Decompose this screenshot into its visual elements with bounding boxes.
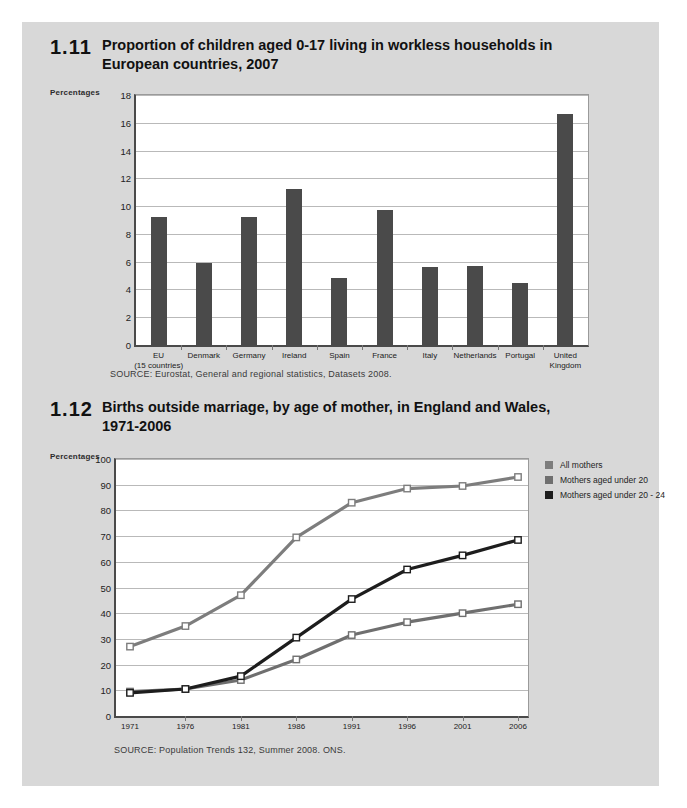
x-axis-tick-label: 1981 — [232, 722, 250, 732]
figure-1-12-heading: 1.12 Births outside marriage, by age of … — [50, 398, 659, 435]
figure-1-11-heading: 1.11 Proportion of children aged 0-17 li… — [50, 36, 659, 73]
figure-1-12-y-axis-caption: Percentages — [50, 452, 100, 461]
gridline — [136, 151, 588, 152]
x-axis-tick-mark — [463, 716, 464, 721]
bar — [422, 267, 438, 345]
x-axis-tick-mark — [498, 345, 499, 350]
data-point-marker — [182, 623, 188, 629]
legend-item-label: Mothers aged under 20 — [560, 475, 648, 485]
data-point-marker — [293, 534, 299, 540]
x-axis-tick-label: Italy — [422, 351, 437, 361]
line-chart-legend: All mothersMothers aged under 20Mothers … — [545, 460, 665, 505]
y-axis-tick-label: 8 — [126, 228, 131, 239]
x-axis-tick-label-line: Germany — [233, 351, 266, 361]
bar — [467, 266, 483, 345]
y-axis-tick-label: 100 — [95, 454, 111, 465]
y-axis-tick-label: 60 — [100, 556, 111, 567]
bar — [512, 283, 528, 346]
data-point-marker — [182, 686, 188, 692]
gridline — [136, 95, 588, 96]
x-axis-tick-mark — [272, 345, 273, 350]
y-axis-tick-label: 50 — [100, 582, 111, 593]
data-point-marker — [459, 610, 465, 616]
bar — [196, 263, 212, 345]
data-point-marker — [515, 601, 521, 607]
data-point-marker — [404, 566, 410, 572]
data-point-marker — [515, 474, 521, 480]
x-axis-tick-label-line: Italy — [422, 351, 437, 361]
gridline — [136, 234, 588, 235]
data-point-marker — [349, 596, 355, 602]
y-axis-tick-label: 14 — [120, 145, 131, 156]
line-series-canvas — [116, 459, 528, 716]
bar — [286, 189, 302, 345]
x-axis-tick-mark — [317, 345, 318, 350]
y-axis-tick-label: 30 — [100, 633, 111, 644]
figure-1-11-number: 1.11 — [50, 36, 102, 59]
x-axis-tick-label: UnitedKingdom — [550, 351, 582, 370]
x-axis-tick-label-line: Spain — [329, 351, 349, 361]
y-axis-tick-label: 90 — [100, 479, 111, 490]
x-axis-tick-label: 1976 — [177, 722, 195, 732]
x-axis-tick-label-line: Kingdom — [550, 361, 582, 371]
x-axis-tick-label: Ireland — [282, 351, 306, 361]
x-axis-tick-label-line: Denmark — [188, 351, 220, 361]
x-axis-tick-label-line: Portugal — [505, 351, 535, 361]
x-axis-tick-label: 1986 — [287, 722, 305, 732]
figure-1-12-source: SOURCE: Population Trends 132, Summer 20… — [114, 745, 346, 755]
figure-1-12-title: Births outside marriage, by age of mothe… — [102, 398, 557, 435]
x-axis-tick-mark — [181, 345, 182, 350]
x-axis-tick-label: France — [372, 351, 397, 361]
x-axis-tick-mark — [226, 345, 227, 350]
legend-swatch-icon — [545, 461, 553, 469]
legend-item: Mothers aged under 20 — [545, 475, 665, 485]
bar — [151, 217, 167, 345]
y-axis-tick-label: 6 — [126, 256, 131, 267]
data-point-marker — [459, 483, 465, 489]
legend-item: All mothers — [545, 460, 665, 470]
y-axis-tick-label: 0 — [126, 340, 131, 351]
x-axis-tick-label: 2006 — [509, 722, 527, 732]
gridline — [136, 178, 588, 179]
x-axis-tick-label: Spain — [329, 351, 349, 361]
y-axis-tick-label: 40 — [100, 608, 111, 619]
x-axis-tick-label: EU(15 countries) — [134, 351, 183, 370]
figure-1-12-number: 1.12 — [50, 398, 102, 421]
data-point-marker — [293, 656, 299, 662]
data-point-marker — [349, 632, 355, 638]
y-axis-tick-label: 80 — [100, 505, 111, 516]
x-axis-tick-label: Netherlands — [453, 351, 496, 361]
x-axis-tick-label: 2001 — [454, 722, 472, 732]
x-axis-tick-mark — [296, 716, 297, 721]
y-axis-tick-label: 18 — [120, 90, 131, 101]
legend-item-label: Mothers aged under 20 - 24 — [560, 490, 665, 500]
bar — [241, 217, 257, 345]
x-axis-tick-label: 1996 — [398, 722, 416, 732]
legend-swatch-icon — [545, 476, 553, 484]
x-axis-tick-label: Germany — [233, 351, 266, 361]
x-axis-tick-mark — [241, 716, 242, 721]
x-axis-tick-label-line: EU — [134, 351, 183, 361]
x-axis-tick-label: 1971 — [121, 722, 139, 732]
y-axis-tick-label: 16 — [120, 117, 131, 128]
gridline — [136, 206, 588, 207]
y-axis-tick-label: 0 — [106, 711, 111, 722]
bar — [331, 278, 347, 345]
figure-1-11-source: SOURCE: Eurostat, General and regional s… — [110, 369, 392, 379]
x-axis-tick-mark — [407, 716, 408, 721]
x-axis-tick-label-line: United — [550, 351, 582, 361]
y-axis-tick-label: 4 — [126, 284, 131, 295]
x-axis-tick-label-line: Netherlands — [453, 351, 496, 361]
figure-1-11-y-axis-caption: Percentages — [50, 88, 100, 97]
x-axis-tick-label: 1991 — [343, 722, 361, 732]
y-axis-tick-label: 20 — [100, 659, 111, 670]
data-point-marker — [404, 485, 410, 491]
figure-1-12: 1.12 Births outside marriage, by age of … — [22, 398, 659, 435]
figure-1-11: 1.11 Proportion of children aged 0-17 li… — [22, 36, 659, 73]
y-axis-tick-label: 10 — [100, 685, 111, 696]
data-point-marker — [238, 592, 244, 598]
y-axis-tick-label: 12 — [120, 173, 131, 184]
figure-1-11-title: Proportion of children aged 0-17 living … — [102, 36, 557, 73]
data-point-marker — [459, 552, 465, 558]
bar-chart-plot-area: 024681012141618EU(15 countries)DenmarkGe… — [134, 94, 589, 347]
